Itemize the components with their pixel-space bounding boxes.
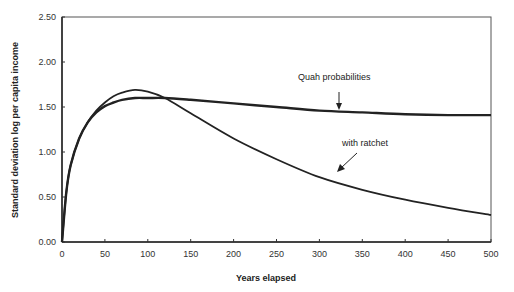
- x-tick-label: 250: [269, 249, 284, 259]
- x-tick-label: 0: [59, 249, 64, 259]
- x-tick-label: 300: [312, 249, 327, 259]
- x-tick-label: 150: [183, 249, 198, 259]
- annotation-ratchet: with ratchet: [341, 138, 389, 148]
- x-tick-label: 200: [226, 249, 241, 259]
- x-axis-label: Years elapsed: [236, 273, 296, 283]
- x-tick-label: 400: [398, 249, 413, 259]
- y-axis-label: Standard deviation log per capita income: [10, 42, 20, 218]
- y-tick-label: 0.50: [38, 192, 56, 202]
- series-line-with-ratchet: [62, 90, 491, 242]
- arrow-icon: [336, 92, 342, 110]
- x-tick-label: 450: [441, 249, 456, 259]
- y-tick-label: 2.00: [38, 57, 56, 67]
- x-tick-label: 50: [100, 249, 110, 259]
- series-line-quah-probabilities: [62, 98, 491, 242]
- arrow-icon: [337, 153, 357, 172]
- y-tick-label: 0.00: [38, 237, 56, 247]
- x-tick-label: 350: [355, 249, 370, 259]
- annotation-quah: Quah probabilities: [298, 72, 371, 82]
- x-tick-label: 500: [483, 249, 498, 259]
- y-tick-label: 2.50: [38, 12, 56, 22]
- series-lines: [62, 90, 491, 242]
- y-tick-label: 1.50: [38, 102, 56, 112]
- line-chart: 0.000.501.001.502.002.50 050100150200250…: [0, 0, 514, 292]
- y-ticks: 0.000.501.001.502.002.50: [38, 12, 65, 247]
- plot-frame: [62, 17, 491, 242]
- y-tick-label: 1.00: [38, 147, 56, 157]
- x-tick-label: 100: [140, 249, 155, 259]
